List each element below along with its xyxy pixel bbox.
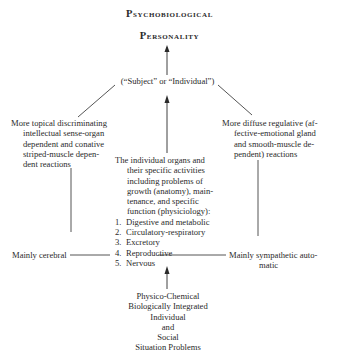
center-intro-line: growth (anatomy), main- bbox=[115, 186, 235, 196]
arrow-subject-to-personality bbox=[165, 45, 170, 75]
right-branch-line: and smooth-muscle de- bbox=[222, 139, 338, 149]
organ-list-item: 1.Digestive and metabolic bbox=[115, 217, 235, 227]
organ-list: 1.Digestive and metabolic 2.Circulatory-… bbox=[115, 217, 235, 268]
organ-list-item: 3.Excretory bbox=[115, 237, 235, 247]
title-line-1: Psychobiological bbox=[0, 8, 339, 19]
subject-node: (“Subject” or “Individual”) bbox=[0, 76, 335, 86]
title-line-2: Personality bbox=[0, 30, 339, 41]
organ-list-item: 2.Circulatory-respiratory bbox=[115, 227, 235, 237]
left-branch-line: dependent and conative bbox=[11, 139, 123, 149]
center-intro-line: tenance, and specific bbox=[115, 196, 235, 206]
right-branch-line: More diffuse regulative (af- bbox=[222, 118, 338, 128]
organ-list-item: 4.Reproductive bbox=[115, 248, 235, 258]
left-branch-text: More topical discriminating intellectual… bbox=[11, 118, 123, 169]
right-branch-line: pendent) reactions bbox=[222, 149, 338, 159]
line-subject-to-right bbox=[218, 85, 252, 115]
arrow-organs-to-subject bbox=[165, 95, 170, 153]
left-branch-line: striped-muscle depen- bbox=[11, 149, 123, 159]
center-intro-line: their specific activities bbox=[115, 165, 235, 175]
center-intro-line: including problems of bbox=[115, 176, 235, 186]
center-intro-line: The individual organs and bbox=[115, 155, 235, 165]
left-branch-line: More topical discriminating bbox=[11, 118, 123, 128]
left-branch-line: intellectual sense-organ bbox=[11, 128, 123, 138]
center-organs-node: The individual organs and their specific… bbox=[115, 155, 235, 268]
line-subject-to-left bbox=[78, 85, 115, 117]
arrow-bottom-to-organs bbox=[165, 266, 170, 289]
center-intro-line: function (physiciology): bbox=[115, 206, 235, 216]
bottom-node: Physico-Chemical Biologically Integrated… bbox=[100, 291, 236, 353]
organ-list-item: 5.Nervous bbox=[115, 258, 235, 268]
right-branch-text: More diffuse regulative (af- fective-emo… bbox=[222, 118, 338, 159]
mainly-sympathetic-label: Mainly sympathetic auto- matic bbox=[229, 250, 337, 271]
left-branch-line: dent reactions bbox=[11, 159, 123, 169]
right-branch-line: fective-emotional gland bbox=[222, 128, 338, 138]
mainly-cerebral-label: Mainly cerebral bbox=[12, 250, 67, 260]
